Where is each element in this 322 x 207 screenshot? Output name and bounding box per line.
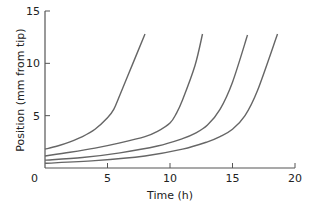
data-line-curve-1	[45, 34, 145, 149]
x-tick-label: 5	[104, 172, 111, 185]
y-axis-label: Position (mm from tip)	[14, 28, 27, 151]
y-tick-label: 0	[31, 172, 38, 185]
data-line-curve-3	[45, 35, 248, 160]
axes: 0510155101520	[26, 5, 302, 185]
x-tick-label: 10	[163, 172, 177, 185]
chart: 0510155101520 Time (h) Position (mm from…	[0, 0, 322, 207]
y-tick-label: 5	[33, 110, 40, 123]
x-tick-label: 20	[288, 172, 302, 185]
plot-area	[45, 34, 278, 163]
data-line-curve-4	[45, 34, 278, 163]
data-line-curve-2	[45, 34, 203, 156]
x-axis-label: Time (h)	[146, 189, 193, 202]
x-tick-label: 15	[226, 172, 240, 185]
y-tick-label: 10	[26, 57, 40, 70]
y-tick-label: 15	[26, 5, 40, 18]
